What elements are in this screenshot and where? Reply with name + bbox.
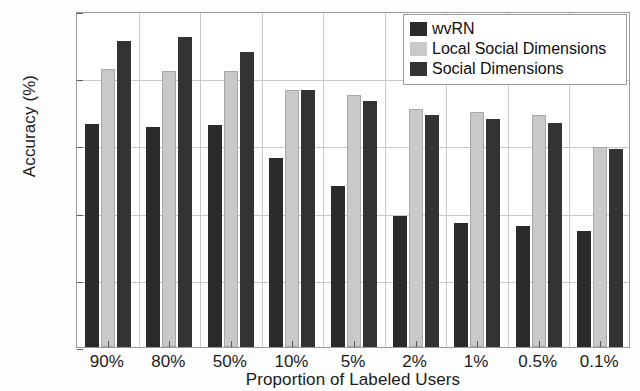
tick-mark xyxy=(77,80,83,81)
tick-mark xyxy=(77,147,83,148)
bar xyxy=(162,71,176,347)
x-axis-title: Proportion of Labeled Users xyxy=(76,370,630,390)
bar xyxy=(470,112,484,347)
tick-mark xyxy=(77,349,83,350)
bar xyxy=(85,124,99,347)
bar xyxy=(285,90,299,347)
bar xyxy=(101,69,115,347)
tick-mark xyxy=(77,282,83,283)
tick-mark xyxy=(477,341,478,347)
bar xyxy=(269,158,283,348)
legend-label: Local Social Dimensions xyxy=(432,41,606,57)
y-axis-title: Accuracy (%) xyxy=(20,26,40,226)
tick-mark xyxy=(354,341,355,347)
legend-swatch-local-social-dimensions xyxy=(410,42,427,56)
bar-chart-figure: Accuracy (%) 01020304050 90%80%50%10%5%2… xyxy=(0,0,640,391)
bar xyxy=(593,147,607,347)
tick-mark xyxy=(416,341,417,347)
bar xyxy=(425,115,439,348)
bar xyxy=(532,115,546,347)
x-tick-label: 0.5% xyxy=(503,352,573,372)
legend-item: Social Dimensions xyxy=(410,59,620,79)
legend-label: wvRN xyxy=(432,21,475,37)
legend-label: Social Dimensions xyxy=(432,61,564,77)
tick-mark xyxy=(231,341,232,347)
legend-item: wvRN xyxy=(410,19,620,39)
bar xyxy=(363,101,377,347)
gridline xyxy=(323,13,324,347)
x-tick-label: 2% xyxy=(380,352,450,372)
gridline xyxy=(200,13,201,347)
x-tick-label: 1% xyxy=(441,352,511,372)
bar xyxy=(393,216,407,347)
tick-mark xyxy=(600,341,601,347)
legend-item: Local Social Dimensions xyxy=(410,39,620,59)
x-tick-label: 0.1% xyxy=(564,352,634,372)
bar xyxy=(301,90,315,347)
bar xyxy=(347,95,361,347)
gridline xyxy=(139,13,140,347)
legend-swatch-wvrn xyxy=(410,22,427,36)
tick-mark xyxy=(108,341,109,347)
bar xyxy=(577,231,591,347)
bar xyxy=(486,119,500,347)
bar xyxy=(240,52,254,347)
x-tick-label: 90% xyxy=(72,352,142,372)
bar xyxy=(117,41,131,347)
gridline xyxy=(262,13,263,347)
bar xyxy=(208,125,222,347)
x-tick-label: 5% xyxy=(318,352,388,372)
tick-mark xyxy=(77,215,83,216)
bar xyxy=(146,127,160,347)
x-tick-label: 80% xyxy=(133,352,203,372)
legend-swatch-social-dimensions xyxy=(410,62,427,76)
tick-mark xyxy=(77,13,83,14)
bar xyxy=(548,123,562,347)
bar xyxy=(409,109,423,347)
bar xyxy=(178,37,192,347)
x-tick-label: 50% xyxy=(195,352,265,372)
gridline xyxy=(385,13,386,347)
tick-mark xyxy=(539,341,540,347)
tick-mark xyxy=(169,341,170,347)
tick-mark xyxy=(292,341,293,347)
bar xyxy=(609,149,623,347)
chart-legend: wvRN Local Social Dimensions Social Dime… xyxy=(403,14,627,85)
bar xyxy=(516,226,530,347)
bar xyxy=(224,71,238,347)
bar xyxy=(454,223,468,347)
bar xyxy=(331,186,345,347)
x-tick-label: 10% xyxy=(256,352,326,372)
